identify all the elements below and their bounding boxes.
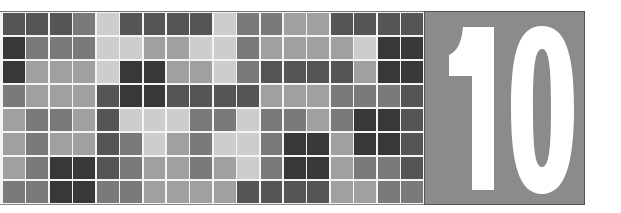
mosaic-cell	[354, 181, 376, 203]
mosaic-cell	[261, 37, 283, 59]
mosaic-cell	[214, 85, 236, 107]
mosaic-cell	[73, 157, 95, 179]
mosaic-cell	[261, 13, 283, 35]
mosaic-cell	[50, 85, 72, 107]
mosaic-cell	[144, 109, 166, 131]
mosaic-cell	[378, 13, 400, 35]
mosaic-cell	[331, 109, 353, 131]
mosaic-cell	[26, 85, 48, 107]
mosaic-cell	[354, 37, 376, 59]
mosaic-cell	[307, 61, 329, 83]
mosaic-cell	[167, 157, 189, 179]
mosaic-cell	[50, 157, 72, 179]
mosaic-cell	[167, 85, 189, 107]
mosaic-cell	[190, 109, 212, 131]
mosaic-cell	[401, 37, 423, 59]
mosaic-cell	[401, 85, 423, 107]
mosaic-cell	[284, 85, 306, 107]
mosaic-cell	[284, 109, 306, 131]
mosaic-cell	[261, 157, 283, 179]
mosaic-cell	[331, 61, 353, 83]
mosaic-cell	[401, 133, 423, 155]
mosaic-cell	[331, 85, 353, 107]
mosaic-cell	[144, 133, 166, 155]
mosaic-cell	[3, 61, 25, 83]
mosaic-cell	[73, 61, 95, 83]
mosaic-cell	[97, 109, 119, 131]
mosaic-cell	[331, 37, 353, 59]
mosaic-cell	[73, 85, 95, 107]
mosaic-cell	[214, 181, 236, 203]
mosaic-cell	[237, 37, 259, 59]
mosaic-cell	[50, 13, 72, 35]
mosaic-cell	[120, 109, 142, 131]
mosaic-cell	[26, 109, 48, 131]
chapter-number-glyph-icon: 10	[425, 12, 585, 205]
mosaic-cell	[97, 13, 119, 35]
mosaic-cell	[354, 157, 376, 179]
mosaic-cell	[331, 13, 353, 35]
mosaic-cell	[401, 157, 423, 179]
mosaic-cell	[73, 133, 95, 155]
mosaic-cell	[190, 133, 212, 155]
mosaic-cell	[214, 133, 236, 155]
mosaic-cell	[50, 37, 72, 59]
mosaic-cell	[401, 181, 423, 203]
mosaic-cell	[261, 85, 283, 107]
mosaic-cell	[214, 37, 236, 59]
mosaic-cell	[190, 157, 212, 179]
mosaic-cell	[144, 61, 166, 83]
mosaic-cell	[307, 109, 329, 131]
mosaic-cell	[120, 85, 142, 107]
mosaic-cell	[167, 181, 189, 203]
mosaic-cell	[190, 85, 212, 107]
mosaic-cell	[354, 109, 376, 131]
mosaic-cell	[97, 157, 119, 179]
mosaic-cell	[167, 109, 189, 131]
mosaic-cell	[3, 85, 25, 107]
mosaic-cell	[144, 85, 166, 107]
mosaic-cell	[401, 13, 423, 35]
mosaic-cell	[237, 13, 259, 35]
mosaic-cell	[284, 157, 306, 179]
mosaic-cell	[26, 157, 48, 179]
mosaic-cell	[354, 133, 376, 155]
mosaic-grid	[0, 11, 424, 205]
mosaic-cell	[97, 37, 119, 59]
mosaic-cell	[307, 85, 329, 107]
mosaic-cell	[378, 133, 400, 155]
mosaic-cell	[401, 61, 423, 83]
mosaic-cell	[378, 85, 400, 107]
mosaic-cell	[167, 133, 189, 155]
mosaic-cell	[284, 133, 306, 155]
mosaic-cell	[284, 61, 306, 83]
mosaic-cell	[50, 109, 72, 131]
mosaic-cell	[214, 109, 236, 131]
mosaic-cell	[214, 157, 236, 179]
mosaic-cell	[354, 85, 376, 107]
mosaic-cell	[3, 13, 25, 35]
mosaic-cell	[120, 13, 142, 35]
mosaic-cell	[144, 13, 166, 35]
mosaic-cell	[261, 61, 283, 83]
mosaic-cell	[26, 61, 48, 83]
mosaic-cell	[401, 109, 423, 131]
mosaic-cell	[50, 181, 72, 203]
mosaic-cell	[307, 181, 329, 203]
mosaic-cell	[144, 157, 166, 179]
mosaic-cell	[3, 109, 25, 131]
mosaic-cell	[261, 109, 283, 131]
mosaic-cell	[378, 61, 400, 83]
mosaic-cell	[378, 157, 400, 179]
mosaic-cell	[237, 85, 259, 107]
mosaic-cell	[97, 181, 119, 203]
mosaic-cell	[73, 13, 95, 35]
mosaic-cell	[26, 181, 48, 203]
mosaic-cell	[3, 181, 25, 203]
mosaic-cell	[97, 133, 119, 155]
mosaic-cell	[73, 37, 95, 59]
mosaic-cell	[73, 109, 95, 131]
mosaic-cell	[3, 37, 25, 59]
mosaic-cell	[237, 61, 259, 83]
mosaic-cell	[378, 109, 400, 131]
